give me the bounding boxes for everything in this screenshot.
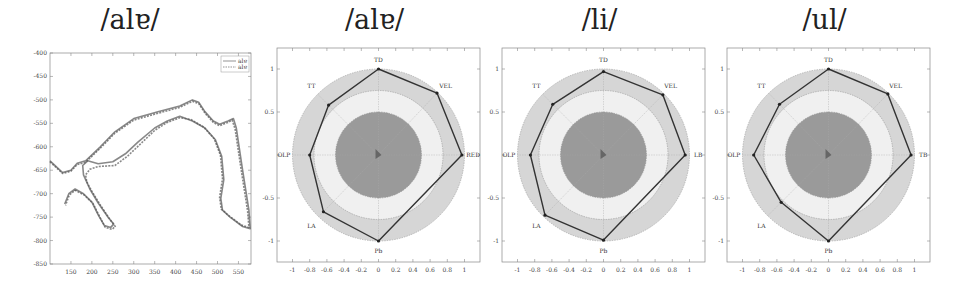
- x-tick-label: 0.4: [408, 266, 418, 273]
- axis-label: Pb: [825, 247, 833, 254]
- vertex-marker: [780, 201, 783, 204]
- y-tick-label: -700: [34, 190, 48, 197]
- y-tick-label: 1: [720, 65, 724, 72]
- y-tick-label: 1: [270, 65, 274, 72]
- axis-label: LA: [532, 222, 541, 229]
- x-tick-label: -0.8: [754, 266, 766, 273]
- x-tick-label: -0.6: [321, 266, 333, 273]
- x-tick-label: 0.6: [650, 266, 660, 273]
- vertex-marker: [377, 239, 380, 242]
- vertex-marker: [752, 153, 755, 156]
- x-tick-label: -0.8: [529, 266, 541, 273]
- x-tick-label: 0.4: [858, 266, 868, 273]
- y-tick-label: -450: [34, 72, 48, 79]
- vertex-marker: [327, 104, 330, 107]
- x-tick-label: -0.2: [356, 266, 368, 273]
- axis-label: TD: [824, 56, 833, 63]
- contour-plot: 150200250300350400450500550-400-450-500-…: [0, 0, 260, 281]
- x-tick-label: -0.4: [338, 266, 350, 273]
- y-tick-label: 0.5: [264, 108, 274, 115]
- axis-label: TD: [599, 56, 608, 63]
- vertex-marker: [435, 91, 438, 94]
- x-tick-label: 0.6: [425, 266, 435, 273]
- y-tick-label: 0.5: [489, 108, 499, 115]
- vertex-marker: [602, 239, 605, 242]
- x-tick-label: 0.2: [841, 266, 851, 273]
- x-tick-label: 150: [65, 268, 77, 275]
- y-tick-label: -850: [34, 260, 48, 267]
- axis-label: TD: [374, 56, 383, 63]
- vertex-marker: [778, 103, 781, 106]
- vertex-marker: [377, 67, 380, 70]
- y-tick-label: -550: [34, 119, 48, 126]
- axis-label: LA: [757, 222, 766, 229]
- x-tick-label: 1: [688, 266, 692, 273]
- x-tick-label: 0.8: [668, 266, 678, 273]
- axis-label: OLP: [727, 151, 740, 158]
- vertex-marker: [308, 153, 311, 156]
- x-tick-label: 1: [463, 266, 467, 273]
- x-tick-label: 0.8: [893, 266, 903, 273]
- x-tick-label: -1: [515, 266, 521, 273]
- y-tick-label: -600: [34, 143, 48, 150]
- axis-label: TT: [757, 82, 765, 89]
- x-tick-label: 0.2: [391, 266, 401, 273]
- y-tick-label: -750: [34, 213, 48, 220]
- radar-plot: -1-0.8-0.6-0.4-0.200.20.40.60.8110.5-0.5…: [487, 0, 712, 281]
- axis-label: Pb: [600, 247, 608, 254]
- y-tick-label: -0.5: [262, 194, 274, 201]
- axis-label: Pb: [375, 247, 383, 254]
- vertex-marker: [543, 214, 546, 217]
- legend: alɐalɐ: [221, 56, 249, 72]
- x-tick-label: 550: [233, 268, 245, 275]
- y-tick-label: -400: [34, 49, 48, 56]
- axis-label: OLP: [502, 151, 515, 158]
- x-tick-label: 0.4: [633, 266, 643, 273]
- x-tick-label: 500: [212, 268, 224, 275]
- x-tick-label: 0.6: [875, 266, 885, 273]
- x-tick-label: 0: [602, 266, 606, 273]
- vertex-marker: [529, 153, 532, 156]
- axis-label: TT: [307, 82, 315, 89]
- x-tick-label: 1: [913, 266, 917, 273]
- y-tick-label: -800: [34, 237, 48, 244]
- y-tick-label: 0.5: [714, 108, 724, 115]
- x-tick-label: 200: [86, 268, 98, 275]
- radar-plot: -1-0.8-0.6-0.4-0.200.20.40.60.8110.5-0.5…: [712, 0, 937, 281]
- x-tick-label: -0.2: [806, 266, 818, 273]
- vertex-marker: [602, 70, 605, 73]
- vertex-marker: [661, 93, 664, 96]
- x-tick-label: -0.6: [546, 266, 558, 273]
- y-tick-label: -500: [34, 96, 48, 103]
- axis-label: TT: [532, 82, 540, 89]
- x-tick-label: 0: [377, 266, 381, 273]
- x-tick-label: -0.6: [771, 266, 783, 273]
- axis-label: LA: [307, 222, 316, 229]
- x-tick-label: 250: [107, 268, 119, 275]
- vertex-marker: [322, 210, 325, 213]
- y-tick-label: -0.5: [487, 194, 499, 201]
- legend-entry: alɐ: [238, 63, 247, 70]
- axis-label: LB: [694, 151, 703, 158]
- axis-label: RED: [466, 151, 480, 158]
- x-tick-label: -0.4: [563, 266, 575, 273]
- x-tick-label: -1: [290, 266, 296, 273]
- vertex-marker: [886, 92, 889, 95]
- y-tick-label: -1: [718, 237, 724, 244]
- panel-contour: /alɐ/ 150200250300350400450500550-400-45…: [0, 0, 260, 281]
- x-tick-label: 0.8: [443, 266, 453, 273]
- vertex-marker: [827, 239, 830, 242]
- y-tick-label: -1: [268, 237, 274, 244]
- x-tick-label: -0.2: [581, 266, 593, 273]
- y-tick-label: -650: [34, 166, 48, 173]
- panel-radar-ale: /alɐ/ -1-0.8-0.6-0.4-0.200.20.40.60.8110…: [262, 0, 487, 281]
- panel-radar-ul: /ul/ -1-0.8-0.6-0.4-0.200.20.40.60.8110.…: [712, 0, 937, 281]
- axis-label: TB: [919, 151, 928, 158]
- x-tick-label: 450: [191, 268, 203, 275]
- vertex-marker: [909, 153, 912, 156]
- y-tick-label: -1: [493, 237, 499, 244]
- axis-label: OLP: [277, 151, 290, 158]
- axis-label: VEL: [438, 82, 452, 89]
- panel-radar-li: /li/ -1-0.8-0.6-0.4-0.200.20.40.60.8110.…: [487, 0, 712, 281]
- x-tick-label: 0.2: [616, 266, 626, 273]
